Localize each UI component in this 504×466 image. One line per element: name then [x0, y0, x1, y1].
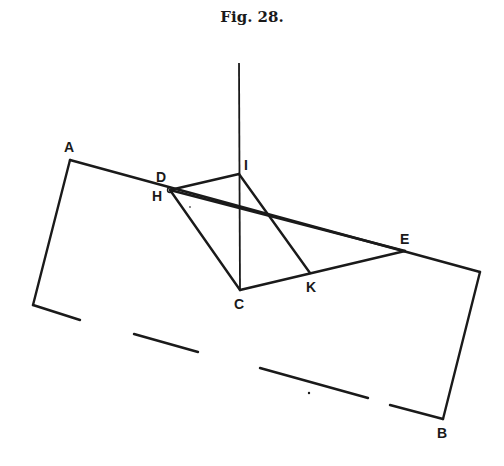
- bottom-edge-segment-3: [260, 368, 368, 398]
- left-edge: [33, 160, 70, 305]
- label-I: I: [244, 157, 248, 173]
- label-B: B: [437, 425, 447, 441]
- top-edge-AE: [70, 160, 480, 272]
- bottom-edge-segment-4: [390, 405, 443, 419]
- label-A: A: [64, 139, 74, 155]
- bottom-edge-segment-1: [33, 305, 80, 320]
- segment-HI: [170, 174, 239, 190]
- right-edge: [443, 272, 480, 419]
- label-H: H: [152, 188, 162, 204]
- speck-dot: [308, 392, 310, 394]
- segment-CE: [240, 251, 405, 290]
- label-E: E: [400, 231, 409, 247]
- bottom-edge-segment-2: [134, 334, 198, 352]
- label-K: K: [306, 279, 316, 295]
- speck-dot: [189, 206, 191, 208]
- geometry-diagram: A B C D H E I K: [0, 0, 504, 466]
- label-D: D: [156, 169, 166, 185]
- label-C: C: [234, 296, 244, 312]
